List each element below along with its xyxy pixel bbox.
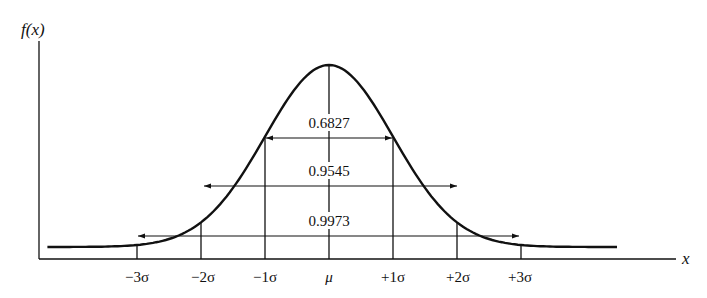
probability-label-3sigma: 0.9973 xyxy=(308,213,349,229)
probability-label-1sigma: 0.6827 xyxy=(308,115,350,131)
tick-label-minus-1sigma: −1σ xyxy=(253,269,277,285)
tick-label-minus-3sigma: −3σ xyxy=(125,269,149,285)
normal-distribution-chart: f(x) x 0.6827 0.9545 0.9973 −3σ −2σ −1σ … xyxy=(0,0,707,298)
tick-label-plus-3sigma: +3σ xyxy=(508,269,532,285)
probability-label-2sigma: 0.9545 xyxy=(308,163,349,179)
tick-label-mu: μ xyxy=(324,269,333,285)
tick-label-plus-1sigma: +1σ xyxy=(381,269,405,285)
tick-label-minus-2sigma: −2σ xyxy=(191,269,215,285)
tick-label-plus-2sigma: +2σ xyxy=(446,269,470,285)
y-axis-label: f(x) xyxy=(21,20,45,39)
x-axis-label: x xyxy=(681,249,690,268)
